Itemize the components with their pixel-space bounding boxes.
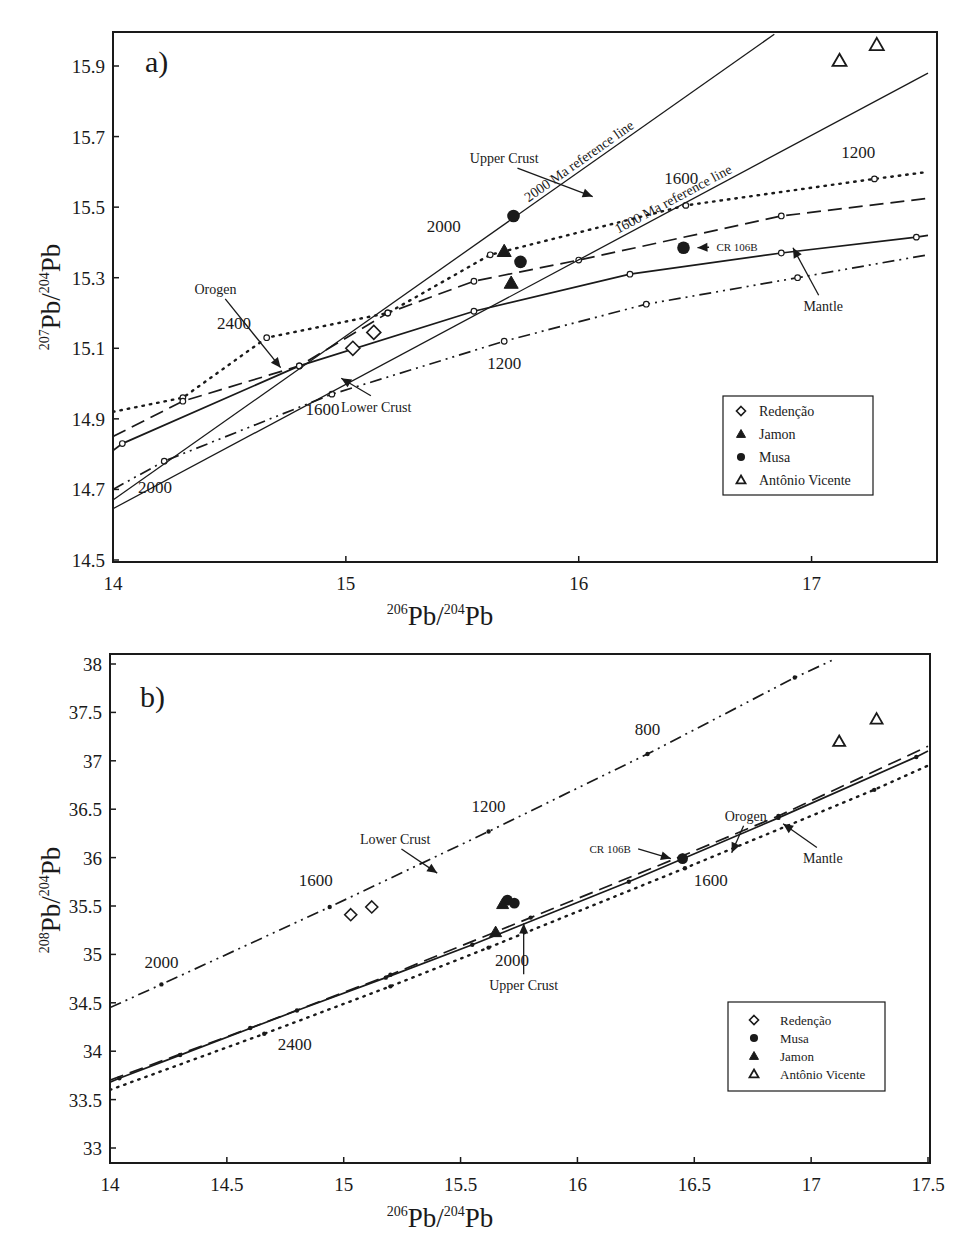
data-point-musa — [507, 210, 520, 223]
annotation-label: Mantle — [803, 851, 843, 866]
panel-label: a) — [145, 45, 168, 79]
x-tick-label: 15 — [336, 573, 355, 594]
data-point-ant-nio-vicente — [833, 735, 845, 746]
annotation-label: Upper Crust — [470, 151, 539, 166]
age-node-marker — [117, 1076, 121, 1080]
age-node-marker — [779, 213, 785, 219]
y-tick-label: 37.5 — [69, 702, 102, 723]
age-node-marker — [159, 982, 163, 986]
age-label: 1600 — [694, 871, 728, 890]
age-node-marker — [385, 310, 391, 316]
annotation-label: CR 106B — [590, 843, 631, 855]
legend: RedençãoMusaJamonAntônio Vicente — [728, 1002, 885, 1091]
y-tick-label: 14.5 — [72, 550, 105, 571]
figure: 14.514.714.915.115.315.515.715.914151617… — [0, 0, 966, 1239]
x-axis-title: 206Pb/204Pb — [387, 1203, 494, 1233]
age-label: 1600 — [299, 871, 333, 890]
age-node-marker — [683, 866, 687, 870]
legend-item-label: Jamon — [780, 1049, 814, 1064]
age-node-marker — [486, 829, 490, 833]
annotation-label: Orogen — [725, 809, 767, 824]
age-label: 2400 — [278, 1035, 312, 1054]
age-node-marker — [262, 1032, 266, 1036]
age-label: 2000 — [144, 953, 178, 972]
legend-item-label: Musa — [780, 1031, 809, 1046]
legend-item-label: Redenção — [759, 404, 814, 419]
panel-label: b) — [140, 680, 165, 714]
age-node-marker — [470, 943, 474, 947]
y-axis-title: 208Pb/204Pb — [36, 847, 66, 954]
annotation-label: Orogen — [194, 282, 236, 297]
data-point-ant-nio-vicente — [833, 54, 847, 66]
age-node-marker — [793, 675, 797, 679]
legend-item-label: Musa — [759, 450, 791, 465]
y-tick-label: 15.9 — [72, 56, 105, 77]
age-node-marker — [501, 338, 507, 344]
age-node-marker — [872, 176, 878, 182]
age-node-marker — [264, 335, 270, 341]
x-tick-label: 14.5 — [210, 1174, 243, 1195]
y-tick-label: 35.5 — [69, 896, 102, 917]
data-point-jamon — [504, 276, 518, 288]
legend-marker-icon — [737, 453, 745, 461]
x-tick-label: 16 — [568, 1174, 587, 1195]
x-axis-title: 206Pb/204Pb — [387, 601, 494, 631]
age-label: 1200 — [841, 143, 875, 162]
age-node-marker — [645, 752, 649, 756]
legend-item-label: Redenção — [780, 1013, 831, 1028]
annotation-label: CR 106B — [716, 241, 757, 253]
age-label: 1200 — [472, 797, 506, 816]
y-tick-label: 36.5 — [69, 799, 102, 820]
y-tick-label: 14.9 — [72, 409, 105, 430]
age-node-marker — [388, 984, 392, 988]
data-point-musa — [509, 898, 520, 909]
legend-item-label: Antônio Vicente — [759, 473, 851, 488]
age-node-marker — [528, 915, 532, 919]
annotation-label: Mantle — [803, 299, 843, 314]
y-tick-label: 38 — [83, 654, 102, 675]
age-node-marker — [120, 441, 126, 447]
x-tick-label: 16 — [569, 573, 588, 594]
age-node-marker — [914, 755, 918, 759]
y-tick-label: 37 — [83, 751, 102, 772]
x-tick-label: 14 — [101, 1174, 121, 1195]
data-point-musa — [677, 853, 688, 864]
arrowhead-icon — [426, 864, 437, 873]
annotation-label: Lower Crust — [360, 832, 430, 847]
data-point-reden-o — [345, 909, 357, 921]
data-point-reden-o — [346, 341, 360, 355]
data-point-musa — [677, 241, 690, 254]
y-tick-label: 15.5 — [72, 197, 105, 218]
age-node-marker — [486, 945, 490, 949]
age-label: 2000 — [427, 217, 461, 236]
arrowhead-icon — [582, 189, 593, 197]
legend: RedençãoJamonMusaAntônio Vicente — [723, 396, 873, 495]
age-node-marker — [776, 816, 780, 820]
age-label: 1600 — [306, 400, 340, 419]
age-label: 800 — [635, 720, 661, 739]
y-tick-label: 14.7 — [72, 479, 105, 500]
x-tick-label: 17 — [802, 1174, 821, 1195]
legend-item-label: Antônio Vicente — [780, 1067, 865, 1082]
y-tick-label: 33.5 — [69, 1090, 102, 1111]
age-node-marker — [384, 975, 388, 979]
annotation-label: Lower Crust — [341, 400, 411, 415]
arrowhead-icon — [271, 357, 281, 368]
data-point-reden-o — [367, 325, 381, 339]
data-point-musa — [514, 256, 527, 269]
x-tick-label: 17 — [802, 573, 821, 594]
annotation-label: Upper Crust — [489, 978, 558, 993]
data-point-reden-o — [366, 901, 378, 913]
x-tick-label: 15.5 — [444, 1174, 477, 1195]
y-tick-label: 36 — [83, 848, 102, 869]
curve-lower-crust — [110, 659, 835, 1007]
y-tick-label: 34.5 — [69, 993, 102, 1014]
age-label: 1200 — [487, 354, 521, 373]
age-node-marker — [795, 275, 801, 281]
age-label: 2400 — [217, 314, 251, 333]
chart-panel-a: 14.514.714.915.115.315.515.715.914151617… — [36, 32, 937, 631]
y-tick-label: 34 — [83, 1041, 103, 1062]
age-node-marker — [627, 880, 631, 884]
y-tick-label: 15.1 — [72, 338, 105, 359]
age-node-marker — [872, 788, 876, 792]
